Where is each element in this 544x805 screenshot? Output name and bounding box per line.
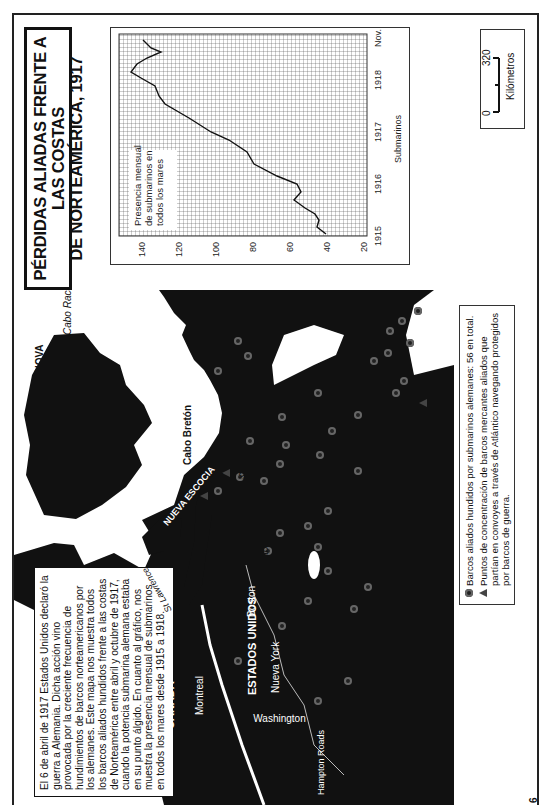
title-line-2: DE NORTEAMÉRICA, 1917 (67, 30, 85, 287)
sunk-ship-marker (278, 622, 286, 630)
label-cabo-may: Cabo May (296, 629, 307, 675)
y-axis-label: Submarinos (393, 114, 403, 163)
label-canada: CANADÁ (164, 681, 176, 729)
label-cabo-cod: Cabo Cod (259, 520, 270, 565)
label-washington: Washington (253, 713, 305, 724)
sunk-ship-marker (244, 352, 252, 360)
svg-text:1916: 1916 (373, 174, 383, 194)
sunk-ship-marker (316, 451, 324, 459)
sunk-ship-marker (344, 677, 352, 685)
sunk-ship-marker (392, 389, 400, 397)
label-cabo-hatteras: Cabo Hatteras (324, 675, 335, 739)
sunk-ship-marker (246, 437, 254, 445)
page-title: PÉRDIDAS ALIADAS FRENTE A LAS COSTAS DE … (24, 27, 72, 290)
x-axis-ticks: 1915 1916 1917 1918 Nov. (373, 29, 383, 246)
sunk-ship-marker (386, 327, 394, 335)
legend-item-sunk: Barcos aliados hundidos por submarinos a… (464, 312, 475, 600)
sunk-ship-marker (324, 507, 332, 515)
svg-text:1917: 1917 (373, 122, 383, 142)
sunk-ship-marker (364, 583, 372, 591)
sunk-ship-marker (304, 522, 312, 530)
svg-text:1915: 1915 (373, 226, 383, 246)
svg-text:1918: 1918 (373, 70, 383, 90)
chart-svg: 20 40 60 80 100 120 140 1915 1916 1917 1… (111, 26, 411, 264)
submarine-chart: 20 40 60 80 100 120 140 1915 1916 1917 1… (110, 27, 410, 265)
svg-text:Nov.: Nov. (373, 29, 383, 47)
label-cabo-lookout: Cabo Lookout (350, 731, 361, 793)
sunk-ship-marker (282, 441, 290, 449)
sunk-ship-marker (406, 339, 414, 347)
sunk-ship-marker (314, 543, 322, 551)
sunk-ship-marker (324, 567, 332, 575)
label-nueva-york: Nueva York (270, 642, 281, 693)
label-terranova: TERRANOVA (34, 344, 45, 407)
map: El 6 de abril de 1917 Estados Unidos dec… (14, 290, 454, 805)
legend-text-sunk: Barcos aliados hundidos por submarinos a… (464, 316, 475, 586)
sunk-ship-marker (234, 657, 242, 665)
rotated-page: 6 PÉRDIDAS ALIADAS FRENTE A LAS COSTAS D… (0, 0, 544, 805)
label-oceano-atlantico: OCÉANO ATLÁNTICO (404, 383, 416, 505)
label-montreal: Montreal (194, 676, 205, 715)
sunk-ship-marker (414, 307, 422, 315)
sunk-ship-marker (384, 349, 392, 357)
svg-text:100: 100 (211, 242, 221, 257)
label-long-island: Long Island (278, 553, 289, 609)
sunk-ship-marker (370, 357, 378, 365)
sunk-ship-marker (214, 367, 222, 375)
convoy-triangle-icon (479, 589, 487, 597)
sunk-ship-marker (234, 337, 242, 345)
legend-item-convoy: Puntos de concentración de barcos mercan… (478, 312, 511, 600)
sunk-ship-marker (354, 467, 362, 475)
sunk-ship-marker (398, 317, 406, 325)
svg-text:60: 60 (285, 242, 295, 252)
map-legend: Barcos aliados hundidos por submarinos a… (459, 305, 515, 605)
legend-text-convoy: Puntos de concentración de barcos mercan… (478, 312, 511, 586)
sunk-ship-marker (276, 460, 284, 468)
label-hampton-roads: Hampton Roads (316, 730, 326, 795)
intro-text: El 6 de abril de 1917 Estados Unidos dec… (39, 575, 166, 790)
convoy-point-marker (419, 399, 427, 407)
scale-min: 0 (481, 110, 492, 116)
label-cabo-race: Cabo Race (62, 290, 73, 335)
sunk-ship-marker (350, 605, 358, 613)
svg-text:120: 120 (174, 242, 184, 257)
svg-text:40: 40 (322, 242, 332, 252)
y-axis-ticks: 20 40 60 80 100 120 140 (137, 242, 369, 257)
sunk-ship-marker (314, 697, 322, 705)
intro-text-box: El 6 de abril de 1917 Estados Unidos dec… (34, 567, 174, 797)
scale-unit: Kilómetros (505, 53, 516, 100)
convoy-point-marker (200, 492, 208, 500)
svg-text:20: 20 (359, 242, 369, 252)
sunk-ship-icon (465, 589, 473, 597)
svg-text:80: 80 (248, 242, 258, 252)
sunk-ship-marker (314, 389, 322, 397)
label-cabo-breton: Cabo Bretón (182, 405, 193, 465)
scale-max: 320 (481, 49, 492, 66)
sunk-ship-marker (328, 427, 336, 435)
sunk-ship-marker (214, 487, 222, 495)
label-estados-unidos: ESTADOS UNIDOS (246, 597, 258, 695)
scale-bar: 0 320 Kilómetros (480, 29, 525, 129)
sunk-ship-marker (276, 529, 284, 537)
sunk-ship-marker (278, 413, 286, 421)
svg-text:140: 140 (137, 242, 147, 257)
sunk-ship-marker (260, 477, 268, 485)
sunk-ship-marker (304, 597, 312, 605)
sunk-ship-marker (354, 411, 362, 419)
title-line-1: PÉRDIDAS ALIADAS FRENTE A LAS COSTAS (31, 30, 67, 287)
